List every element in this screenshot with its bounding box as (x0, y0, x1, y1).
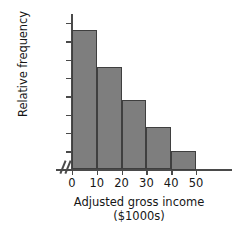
x-tick-label: 30 (133, 176, 159, 190)
x-tick-label: 0 (59, 176, 85, 190)
histogram-bar (122, 100, 147, 170)
x-tick-label: 10 (84, 176, 110, 190)
x-tick-mark (196, 170, 197, 175)
x-axis-title-line1: Adjusted gross income (74, 195, 205, 209)
x-axis-title: Adjusted gross income ($1000s) (46, 195, 232, 223)
y-axis-title: Relative frequency (16, 0, 30, 134)
axis-break-icon (58, 160, 74, 174)
histogram-figure: Relative frequency 0.000.050.100.150.200… (0, 0, 232, 234)
histogram-bar (97, 67, 122, 170)
y-tick-mark (66, 23, 72, 24)
x-tick-mark (146, 170, 147, 175)
x-tick-mark (122, 170, 123, 175)
x-tick-label: 20 (109, 176, 135, 190)
histogram-bar (171, 151, 196, 169)
histogram-bar (72, 30, 97, 169)
x-tick-mark (171, 170, 172, 175)
histogram-bar (146, 127, 171, 169)
x-axis-title-line2: ($1000s) (46, 209, 232, 223)
x-tick-mark (97, 170, 98, 175)
x-tick-label: 40 (158, 176, 184, 190)
x-tick-label: 50 (183, 176, 209, 190)
